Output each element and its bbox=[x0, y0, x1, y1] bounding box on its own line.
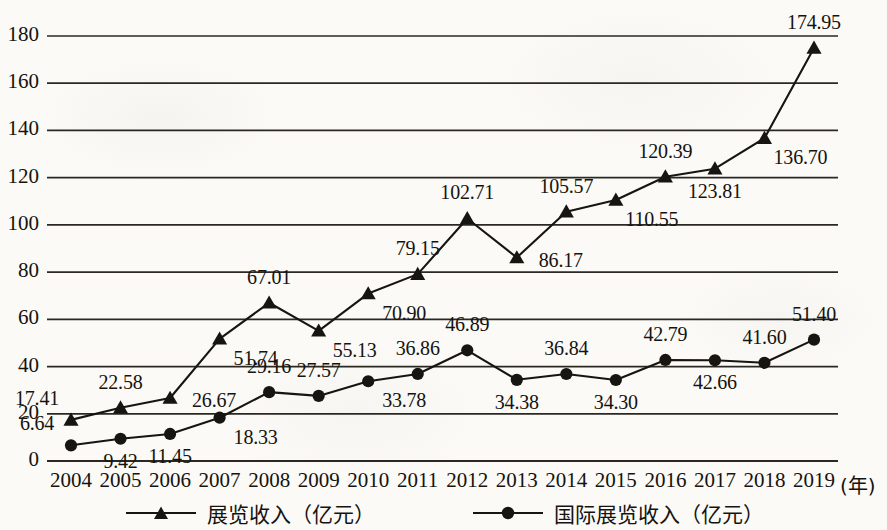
data-point-label: 6.64 bbox=[0, 411, 75, 435]
x-axis-tick-label: 2008 bbox=[241, 468, 297, 493]
data-point-label: 86.17 bbox=[523, 248, 599, 272]
circle-marker-icon bbox=[659, 354, 671, 366]
data-point-label: 41.60 bbox=[726, 325, 802, 349]
x-axis-tick-label: 2015 bbox=[588, 468, 644, 493]
y-axis-tick-label: 140 bbox=[8, 116, 40, 141]
x-axis-tick-label: 2014 bbox=[538, 468, 594, 493]
circle-marker-icon bbox=[461, 344, 473, 356]
x-axis-tick-label: 2009 bbox=[291, 468, 347, 493]
data-point-label: 26.67 bbox=[176, 388, 252, 412]
data-point-label: 120.39 bbox=[627, 139, 703, 163]
legend-item-international-exhibition-revenue[interactable]: 国际展览收入（亿元） bbox=[471, 498, 764, 528]
data-point-label: 136.70 bbox=[762, 145, 838, 169]
data-point-label: 34.30 bbox=[578, 390, 654, 414]
circle-marker-icon bbox=[114, 433, 126, 445]
series-line bbox=[71, 48, 814, 420]
legend-label-international-exhibition-revenue: 国际展览收入（亿元） bbox=[554, 498, 764, 528]
data-point-label: 36.86 bbox=[380, 336, 456, 360]
data-point-label: 33.78 bbox=[366, 388, 442, 412]
triangle-marker-icon bbox=[707, 161, 722, 174]
circle-marker-icon bbox=[362, 375, 374, 387]
data-point-label: 11.45 bbox=[132, 444, 208, 468]
triangle-marker-icon bbox=[757, 131, 772, 144]
x-axis-tick-label: 2010 bbox=[340, 468, 396, 493]
x-axis-tick-label: 2016 bbox=[637, 468, 693, 493]
x-axis-tick-label: 2007 bbox=[192, 468, 248, 493]
data-point-label: 18.33 bbox=[218, 425, 294, 449]
x-axis-tick-label: 2012 bbox=[439, 468, 495, 493]
x-axis-tick-label: 2017 bbox=[687, 468, 743, 493]
circle-marker-icon bbox=[758, 357, 770, 369]
triangle-marker-icon bbox=[806, 41, 821, 54]
data-point-label: 27.57 bbox=[281, 358, 357, 382]
data-point-label: 17.41 bbox=[0, 386, 75, 410]
y-axis-tick-label: 120 bbox=[8, 164, 40, 189]
triangle-marker-icon bbox=[262, 295, 277, 308]
data-point-label: 102.71 bbox=[429, 180, 505, 204]
circle-marker-icon bbox=[65, 439, 77, 451]
data-point-label: 105.57 bbox=[528, 174, 604, 198]
x-axis-unit-label: (年) bbox=[840, 470, 876, 499]
circle-marker-icon bbox=[560, 368, 572, 380]
x-axis-tick-label: 2011 bbox=[390, 468, 446, 493]
x-axis-tick-label: 2019 bbox=[786, 468, 842, 493]
chart-figure: 180160140120100806040200 200420052006200… bbox=[0, 0, 887, 530]
circle-marker-icon bbox=[214, 412, 226, 424]
triangle-marker-icon bbox=[311, 323, 326, 336]
y-axis-tick-label: 0 bbox=[29, 447, 40, 472]
triangle-marker-icon bbox=[460, 211, 475, 224]
circle-marker-icon bbox=[471, 504, 545, 522]
circle-marker-icon bbox=[313, 390, 325, 402]
data-point-label: 51.40 bbox=[776, 302, 852, 326]
data-point-label: 79.15 bbox=[380, 236, 456, 260]
circle-marker-icon bbox=[263, 386, 275, 398]
data-point-label: 67.01 bbox=[231, 265, 307, 289]
y-axis-tick-label: 60 bbox=[18, 305, 39, 330]
data-point-label: 174.95 bbox=[776, 10, 852, 34]
y-axis-tick-label: 100 bbox=[8, 211, 40, 236]
circle-marker-icon bbox=[610, 374, 622, 386]
circle-marker-icon bbox=[511, 374, 523, 386]
y-axis-tick-label: 40 bbox=[18, 353, 39, 378]
data-point-label: 46.89 bbox=[429, 312, 505, 336]
data-point-label: 22.58 bbox=[83, 370, 159, 394]
legend-label-exhibition-revenue: 展览收入（亿元） bbox=[207, 498, 375, 528]
data-point-label: 42.79 bbox=[627, 322, 703, 346]
legend-item-exhibition-revenue[interactable]: 展览收入（亿元） bbox=[124, 498, 375, 528]
triangle-marker-icon bbox=[212, 331, 227, 344]
circle-marker-icon bbox=[808, 334, 820, 346]
triangle-marker-icon bbox=[361, 286, 376, 299]
circle-marker-icon bbox=[164, 428, 176, 440]
data-point-label: 110.55 bbox=[614, 207, 690, 231]
y-axis-tick-label: 180 bbox=[8, 22, 40, 47]
data-point-label: 36.84 bbox=[528, 336, 604, 360]
x-axis-tick-label: 2013 bbox=[489, 468, 545, 493]
circle-marker-icon bbox=[709, 354, 721, 366]
y-axis-tick-label: 80 bbox=[18, 258, 39, 283]
triangle-marker-icon bbox=[124, 504, 198, 522]
data-point-label: 123.81 bbox=[677, 179, 753, 203]
data-point-label: 42.66 bbox=[677, 370, 753, 394]
chart-legend: 展览收入（亿元） 国际展览收入（亿元） bbox=[0, 496, 887, 530]
x-axis-tick-label: 2018 bbox=[736, 468, 792, 493]
triangle-marker-icon bbox=[608, 193, 623, 206]
y-axis-tick-label: 160 bbox=[8, 69, 40, 94]
data-point-label: 34.38 bbox=[479, 390, 555, 414]
circle-marker-icon bbox=[412, 368, 424, 380]
